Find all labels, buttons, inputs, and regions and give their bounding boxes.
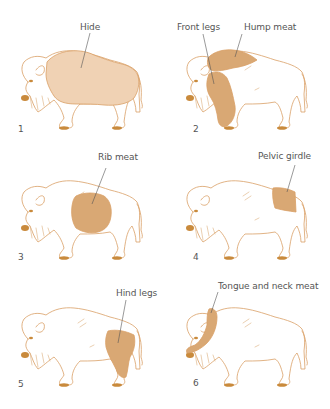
label-hump-meat: Hump meat bbox=[244, 22, 296, 32]
bison-front-hoof bbox=[59, 126, 69, 130]
bison-hind-hoof bbox=[112, 126, 122, 130]
bison-hind-hoof bbox=[277, 126, 287, 130]
hind-legs-region bbox=[106, 330, 135, 377]
bison-front-hoof bbox=[224, 256, 234, 260]
bison-illustration bbox=[0, 140, 165, 276]
panel-number: 4 bbox=[193, 252, 199, 262]
panel-number: 6 bbox=[193, 378, 199, 388]
panel-number: 5 bbox=[18, 379, 24, 389]
bison-eye bbox=[29, 80, 33, 82]
bison-hind-hoof bbox=[277, 256, 287, 260]
bison-body-outline bbox=[187, 308, 305, 385]
bison-body-fur bbox=[78, 319, 94, 347]
bison-horn bbox=[36, 196, 44, 206]
panel-hide: Hide 1 bbox=[0, 0, 165, 136]
bison-horn bbox=[201, 66, 209, 76]
bison-hind-hoof bbox=[112, 256, 122, 260]
label-front-legs: Front legs bbox=[177, 22, 220, 32]
label-pelvic-girdle: Pelvic girdle bbox=[258, 151, 311, 161]
panel-number: 1 bbox=[18, 124, 24, 134]
bison-front-hoof bbox=[59, 256, 69, 260]
bison-eye bbox=[194, 210, 198, 212]
bison-nose bbox=[186, 225, 194, 231]
panel-rib: Rib meat 3 bbox=[0, 140, 165, 276]
pelvic-girdle-leader-line bbox=[287, 165, 295, 192]
rib-meat-region bbox=[72, 193, 112, 233]
front-legs-region bbox=[207, 72, 235, 127]
bison-body-fur bbox=[243, 319, 259, 347]
bison-nose bbox=[186, 95, 194, 101]
label-hind-legs: Hind legs bbox=[116, 288, 157, 298]
panel-number: 3 bbox=[18, 252, 24, 262]
pelvic-girdle-region bbox=[273, 188, 296, 212]
bison-nose bbox=[21, 352, 29, 358]
bison-eye bbox=[29, 337, 33, 339]
panel-tongue-neck: Tongue and neck meat 6 bbox=[165, 275, 330, 409]
tongue-neck-region bbox=[186, 308, 217, 353]
bison-eye bbox=[194, 337, 198, 339]
bison-horn bbox=[36, 66, 44, 76]
panel-number: 2 bbox=[193, 124, 199, 134]
bison-front-hoof bbox=[59, 383, 69, 387]
bison-front-hoof bbox=[224, 383, 234, 387]
label-tongue-neck-meat: Tongue and neck meat bbox=[218, 281, 318, 291]
label-hide: Hide bbox=[80, 22, 100, 32]
label-rib-meat: Rib meat bbox=[98, 152, 138, 162]
bison-body-fur bbox=[243, 192, 259, 220]
bison-eye bbox=[29, 210, 33, 212]
bison-illustration bbox=[165, 275, 330, 409]
panel-pelvic: Pelvic girdle 4 bbox=[165, 140, 330, 276]
bison-horn bbox=[201, 196, 209, 206]
hide-region bbox=[46, 51, 139, 106]
bison-illustration bbox=[165, 0, 330, 136]
panel-front-legs-hump: Front legs Hump meat 2 bbox=[165, 0, 330, 136]
bison-horn bbox=[36, 323, 44, 333]
bison-body-fur bbox=[243, 62, 259, 90]
bison-illustration bbox=[0, 0, 165, 136]
bison-eye bbox=[194, 80, 198, 82]
bison-nose bbox=[21, 95, 29, 101]
panel-hind-legs: Hind legs 5 bbox=[0, 275, 165, 409]
bison-hind-hoof bbox=[277, 383, 287, 387]
bison-hind-hoof bbox=[112, 383, 122, 387]
bison-nose bbox=[21, 225, 29, 231]
